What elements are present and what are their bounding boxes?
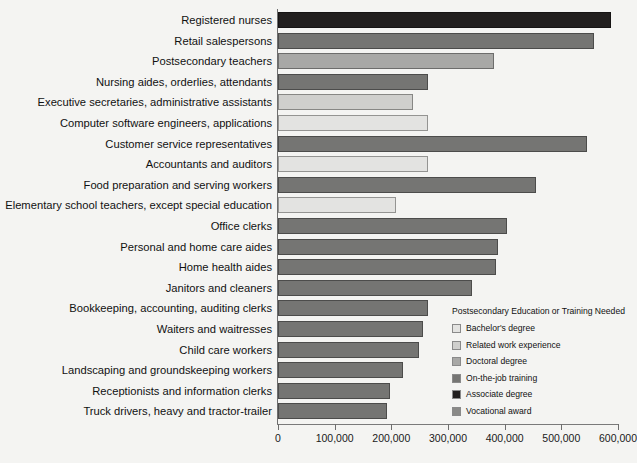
category-label: Truck drivers, heavy and tractor-trailer bbox=[0, 401, 272, 421]
bar bbox=[278, 33, 594, 49]
bar bbox=[278, 403, 387, 419]
legend-title: Postsecondary Education or Training Need… bbox=[452, 306, 630, 316]
bar bbox=[278, 197, 396, 213]
x-axis-tick bbox=[391, 424, 392, 430]
x-axis-tick-label: 200,000 bbox=[372, 432, 410, 444]
chart-row: Food preparation and serving workers bbox=[0, 175, 633, 195]
category-label: Computer software engineers, application… bbox=[0, 113, 272, 133]
bar bbox=[278, 342, 419, 358]
x-axis-tick bbox=[448, 424, 449, 430]
legend-item[interactable]: Vocational award bbox=[452, 404, 630, 419]
category-label: Postsecondary teachers bbox=[0, 51, 272, 71]
legend-swatch-icon bbox=[452, 390, 461, 399]
x-axis-tick bbox=[618, 424, 619, 430]
chart-row: Personal and home care aides bbox=[0, 237, 633, 257]
chart-row: Janitors and cleaners bbox=[0, 278, 633, 298]
bar bbox=[278, 218, 507, 234]
chart-row: Executive secretaries, administrative as… bbox=[0, 92, 633, 112]
bar bbox=[278, 94, 413, 110]
bar bbox=[278, 300, 428, 316]
chart-row: Home health aides bbox=[0, 257, 633, 277]
legend-item[interactable]: Bachelor's degree bbox=[452, 321, 630, 336]
chart-row: Nursing aides, orderlies, attendants bbox=[0, 72, 633, 92]
bar bbox=[278, 156, 428, 172]
category-label: Child care workers bbox=[0, 340, 272, 360]
legend-label: Bachelor's degree bbox=[466, 324, 535, 333]
x-axis-tick-label: 400,000 bbox=[486, 432, 524, 444]
legend-swatch-icon bbox=[452, 357, 461, 366]
category-label: Landscaping and groundskeeping workers bbox=[0, 360, 272, 380]
category-label: Bookkeeping, accounting, auditing clerks bbox=[0, 298, 272, 318]
chart-row: Postsecondary teachers bbox=[0, 51, 633, 71]
category-label: Office clerks bbox=[0, 216, 272, 236]
x-axis-tick-label: 100,000 bbox=[316, 432, 354, 444]
category-label: Accountants and auditors bbox=[0, 154, 272, 174]
bar bbox=[278, 136, 587, 152]
category-label: Food preparation and serving workers bbox=[0, 175, 272, 195]
x-axis-tick-label: 500,000 bbox=[542, 432, 580, 444]
category-label: Waiters and waitresses bbox=[0, 319, 272, 339]
chart-legend: Postsecondary Education or Training Need… bbox=[452, 306, 630, 420]
legend-label: Related work experience bbox=[466, 341, 561, 350]
bar bbox=[278, 259, 496, 275]
x-axis-tick-label: 300,000 bbox=[429, 432, 467, 444]
category-label: Retail salespersons bbox=[0, 31, 272, 51]
legend-swatch-icon bbox=[452, 374, 461, 383]
bar bbox=[278, 115, 428, 131]
category-label: Nursing aides, orderlies, attendants bbox=[0, 72, 272, 92]
x-axis-tick bbox=[335, 424, 336, 430]
category-label: Customer service representatives bbox=[0, 134, 272, 154]
x-axis-tick bbox=[561, 424, 562, 430]
x-axis-tick bbox=[278, 424, 279, 430]
category-label: Home health aides bbox=[0, 257, 272, 277]
bar bbox=[278, 53, 494, 69]
legend-item[interactable]: Associate degree bbox=[452, 387, 630, 402]
legend-items: Bachelor's degreeRelated work experience… bbox=[452, 321, 630, 419]
category-label: Executive secretaries, administrative as… bbox=[0, 92, 272, 112]
legend-label: On-the-job training bbox=[466, 374, 537, 383]
legend-item[interactable]: Related work experience bbox=[452, 338, 630, 353]
category-label: Receptionists and information clerks bbox=[0, 381, 272, 401]
bar bbox=[278, 321, 423, 337]
bar bbox=[278, 177, 536, 193]
legend-swatch-icon bbox=[452, 324, 461, 333]
chart-row: Customer service representatives bbox=[0, 134, 633, 154]
legend-label: Doctoral degree bbox=[466, 357, 527, 366]
x-axis-tick bbox=[505, 424, 506, 430]
chart-row: Computer software engineers, application… bbox=[0, 113, 633, 133]
category-label: Personal and home care aides bbox=[0, 237, 272, 257]
bar bbox=[278, 362, 403, 378]
chart-row: Office clerks bbox=[0, 216, 633, 236]
chart-row: Retail salespersons bbox=[0, 31, 633, 51]
bar bbox=[278, 12, 611, 28]
legend-label: Vocational award bbox=[466, 407, 531, 416]
bar bbox=[278, 239, 498, 255]
legend-swatch-icon bbox=[452, 407, 461, 416]
x-axis-tick-label: 0 bbox=[275, 432, 281, 444]
chart-row: Elementary school teachers, except speci… bbox=[0, 195, 633, 215]
bar bbox=[278, 383, 390, 399]
legend-item[interactable]: On-the-job training bbox=[452, 371, 630, 386]
category-label: Elementary school teachers, except speci… bbox=[0, 195, 272, 215]
category-label: Janitors and cleaners bbox=[0, 278, 272, 298]
bar bbox=[278, 280, 472, 296]
x-axis-tick-label: 600,000 bbox=[599, 432, 637, 444]
bar bbox=[278, 74, 428, 90]
legend-label: Associate degree bbox=[466, 390, 532, 399]
category-label: Registered nurses bbox=[0, 10, 272, 30]
legend-swatch-icon bbox=[452, 341, 461, 350]
legend-item[interactable]: Doctoral degree bbox=[452, 354, 630, 369]
chart-row: Registered nurses bbox=[0, 10, 633, 30]
chart-row: Accountants and auditors bbox=[0, 154, 633, 174]
